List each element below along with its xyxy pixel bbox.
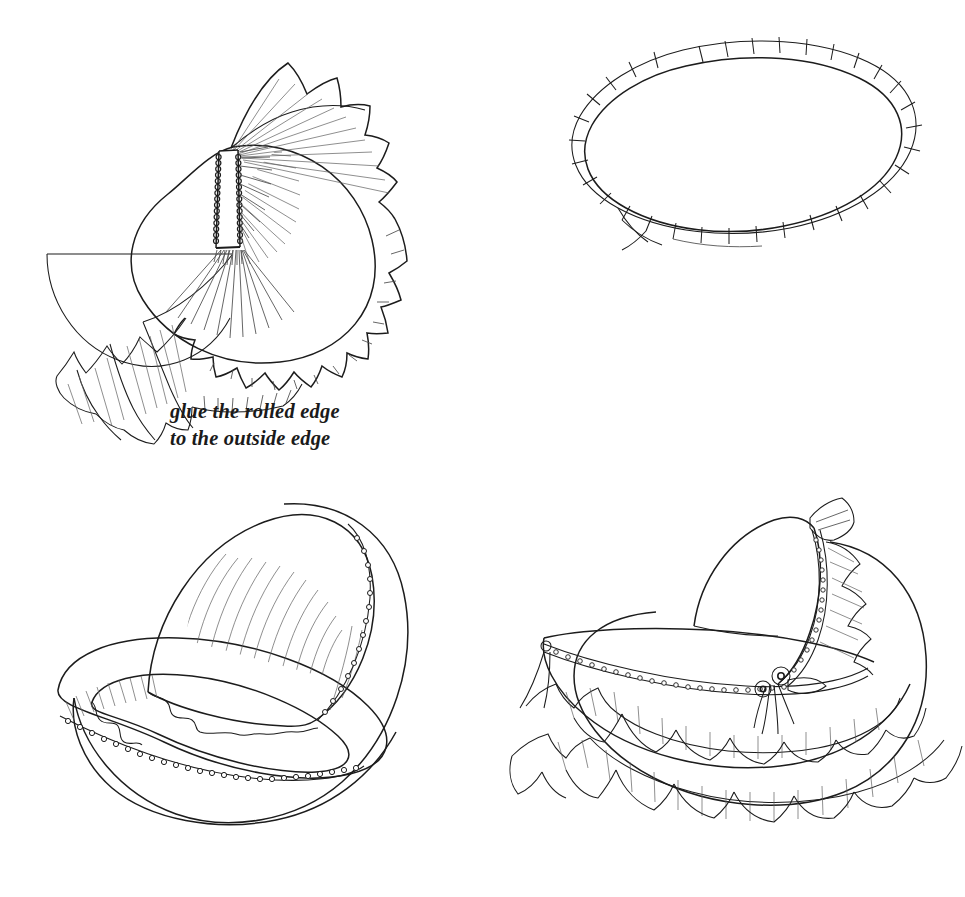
gather-lines-skirt — [166, 250, 294, 338]
figure-fold-satin: satin overlap card base fold the satin o… — [470, 0, 965, 470]
gather-lines-right — [241, 152, 300, 264]
gather-ticks — [214, 250, 242, 265]
caption-glue-rolled-edge: glue the rolled edge to the outside edge — [170, 398, 340, 451]
figure-fold-satin-art — [470, 0, 965, 470]
figure-lined-crib: lined crib with mattress in position — [0, 470, 470, 897]
rim-end-tie — [520, 641, 551, 708]
figure-glue-rolled-edge: glue the rolled edge to the outside edge — [0, 0, 470, 470]
crib-gather-ticks — [66, 675, 157, 720]
gather-lines-strip — [240, 147, 272, 238]
rolled-edge-strip — [214, 150, 243, 248]
fan-ruffle-upper — [231, 63, 397, 219]
rosette-cluster — [754, 667, 826, 734]
satin-tabs — [569, 37, 922, 244]
crib-hood — [148, 515, 374, 727]
figure-second-row-lace: place the second row of lace under the f… — [470, 470, 965, 897]
figure-lined-crib-art — [0, 470, 470, 897]
instruction-sheet: glue the rolled edge to the outside edge — [0, 0, 965, 897]
beaded-trim-rim-lace — [544, 644, 868, 695]
lace-row-first — [526, 684, 926, 764]
ruffle-right-edge — [174, 219, 407, 390]
lace-frill-hood — [820, 542, 873, 675]
beaded-trim-rim — [60, 716, 364, 782]
figure-second-row-lace-art — [470, 470, 965, 897]
